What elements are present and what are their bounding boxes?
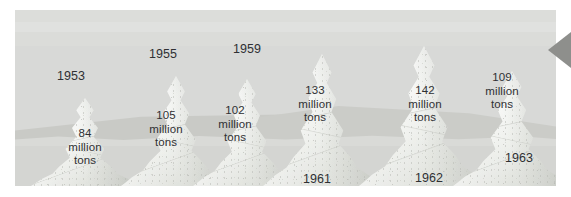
year-label-1953: 1953: [41, 69, 101, 84]
amount-label-1953: 84 million tons: [53, 127, 117, 168]
sky-band-top: [15, 10, 556, 22]
amount-label-1955: 105 million tons: [134, 109, 198, 150]
sky-band-middle: [15, 22, 556, 32]
year-label-1963: 1963: [489, 151, 549, 166]
year-label-1961: 1961: [287, 172, 347, 186]
amount-label-1961: 133 million tons: [283, 84, 347, 125]
sky-band-lower: [15, 32, 556, 46]
amount-label-1963: 109 million tons: [470, 71, 534, 112]
amount-label-1959: 102 million tons: [203, 104, 267, 145]
illustration-panel: 195384 million tons1955105 million tons1…: [15, 10, 556, 186]
amount-label-1962: 142 million tons: [393, 84, 457, 125]
left-triangle-pointer-icon: [548, 32, 571, 68]
screenshot-root: 195384 million tons1955105 million tons1…: [0, 0, 571, 197]
year-label-1962: 1962: [399, 171, 459, 186]
year-label-1959: 1959: [217, 42, 277, 57]
year-label-1955: 1955: [133, 47, 193, 62]
